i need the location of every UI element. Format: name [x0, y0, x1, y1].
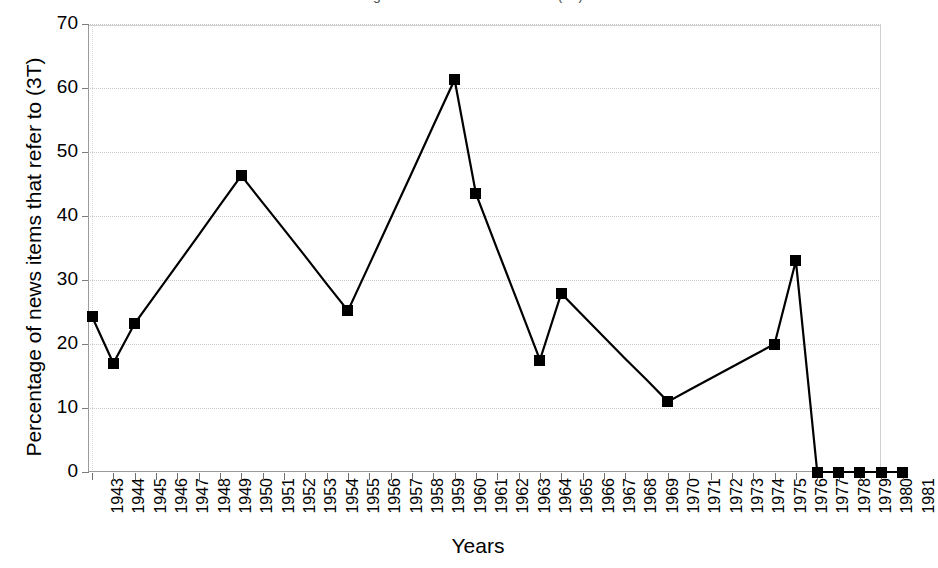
y-tick-label-50: 50: [18, 140, 78, 162]
data-point-1976: [790, 255, 801, 266]
x-tick-mark-1971: [689, 473, 690, 480]
x-tick-label-1980: 1980: [898, 478, 916, 536]
x-tick-mark-1952: [284, 473, 285, 480]
x-tick-label-1948: 1948: [216, 478, 234, 536]
x-tick-label-1951: 1951: [280, 478, 298, 536]
x-tick-mark-1972: [711, 473, 712, 480]
x-tick-mark-1949: [220, 473, 221, 480]
data-point-1965: [556, 288, 567, 299]
data-point-1979: [854, 467, 865, 478]
y-tick-label-40: 40: [18, 204, 78, 226]
data-point-1945: [129, 318, 140, 329]
x-tick-label-1971: 1971: [706, 478, 724, 536]
data-point-1981: [897, 467, 908, 478]
x-tick-label-1965: 1965: [578, 478, 596, 536]
x-tick-mark-1956: [369, 473, 370, 480]
x-tick-mark-1954: [327, 473, 328, 480]
x-axis-title: Years: [0, 534, 900, 558]
x-tick-label-1973: 1973: [749, 478, 767, 536]
x-tick-mark-1960: [455, 473, 456, 480]
x-tick-label-1952: 1952: [301, 478, 319, 536]
x-tick-label-1954: 1954: [344, 478, 362, 536]
x-tick-label-1981: 1981: [920, 478, 938, 536]
x-tick-label-1957: 1957: [408, 478, 426, 536]
y-tick-label-60: 60: [18, 76, 78, 98]
x-tick-mark-1946: [156, 473, 157, 480]
x-tick-mark-1976: [796, 473, 797, 480]
x-tick-mark-1965: [561, 473, 562, 480]
y-tick-label-20: 20: [18, 332, 78, 354]
x-tick-label-1968: 1968: [642, 478, 660, 536]
x-tick-mark-1961: [476, 473, 477, 480]
x-tick-label-1950: 1950: [258, 478, 276, 536]
x-tick-mark-1966: [583, 473, 584, 480]
x-tick-label-1970: 1970: [685, 478, 703, 536]
x-tick-mark-1955: [348, 473, 349, 480]
x-tick-mark-1958: [412, 473, 413, 480]
x-tick-mark-1974: [753, 473, 754, 480]
x-tick-mark-1947: [177, 473, 178, 480]
x-tick-label-1961: 1961: [493, 478, 511, 536]
x-tick-label-1962: 1962: [514, 478, 532, 536]
plot-area: [88, 25, 881, 472]
x-tick-mark-1962: [497, 473, 498, 480]
x-tick-mark-1950: [241, 473, 242, 480]
x-tick-label-1977: 1977: [834, 478, 852, 536]
clipped-chart-title: Percentage of news items that refer to (…: [0, 0, 900, 3]
data-point-1975: [769, 339, 780, 350]
x-tick-mark-1968: [625, 473, 626, 480]
x-tick-label-1958: 1958: [429, 478, 447, 536]
x-tick-label-1972: 1972: [728, 478, 746, 536]
data-point-1970: [662, 396, 673, 407]
x-tick-mark-1948: [199, 473, 200, 480]
data-point-1944: [108, 358, 119, 369]
x-tick-label-1967: 1967: [621, 478, 639, 536]
x-tick-label-1969: 1969: [664, 478, 682, 536]
y-tick-label-30: 30: [18, 268, 78, 290]
x-tick-label-1960: 1960: [472, 478, 490, 536]
y-tick-mark-0: [82, 472, 89, 473]
x-tick-label-1963: 1963: [536, 478, 554, 536]
x-tick-mark-1973: [732, 473, 733, 480]
y-tick-label-10: 10: [18, 396, 78, 418]
x-tick-label-1978: 1978: [856, 478, 874, 536]
x-tick-label-1945: 1945: [152, 478, 170, 536]
x-tick-label-1959: 1959: [450, 478, 468, 536]
x-tick-mark-1963: [519, 473, 520, 480]
x-tick-mark-1975: [775, 473, 776, 480]
x-tick-label-1974: 1974: [770, 478, 788, 536]
y-tick-label-70: 70: [18, 12, 78, 34]
x-tick-label-1943: 1943: [109, 478, 127, 536]
data-point-1977: [812, 467, 823, 478]
x-tick-mark-1945: [135, 473, 136, 480]
data-point-1943: [87, 311, 98, 322]
x-tick-label-1955: 1955: [365, 478, 383, 536]
x-tick-mark-1970: [668, 473, 669, 480]
data-point-1955: [342, 305, 353, 316]
x-tick-label-1944: 1944: [130, 478, 148, 536]
x-tick-mark-1957: [391, 473, 392, 480]
x-tick-mark-1944: [113, 473, 114, 480]
y-tick-label-0: 0: [18, 460, 78, 482]
x-tick-label-1964: 1964: [557, 478, 575, 536]
x-tick-label-1946: 1946: [173, 478, 191, 536]
data-point-1980: [876, 467, 887, 478]
x-tick-mark-1964: [540, 473, 541, 480]
x-tick-label-1956: 1956: [386, 478, 404, 536]
x-tick-mark-1943: [92, 473, 93, 480]
data-point-1964: [534, 355, 545, 366]
data-point-1961: [470, 188, 481, 199]
data-point-1978: [833, 467, 844, 478]
x-tick-label-1975: 1975: [792, 478, 810, 536]
x-tick-label-1947: 1947: [194, 478, 212, 536]
x-tick-label-1949: 1949: [237, 478, 255, 536]
data-point-1960: [449, 74, 460, 85]
x-tick-mark-1969: [647, 473, 648, 480]
x-tick-mark-1953: [305, 473, 306, 480]
data-point-1950: [236, 170, 247, 181]
x-axis-title-label: Years: [452, 534, 505, 558]
x-tick-mark-1959: [433, 473, 434, 480]
x-tick-label-1953: 1953: [322, 478, 340, 536]
x-tick-mark-1951: [263, 473, 264, 480]
x-tick-label-1979: 1979: [877, 478, 895, 536]
